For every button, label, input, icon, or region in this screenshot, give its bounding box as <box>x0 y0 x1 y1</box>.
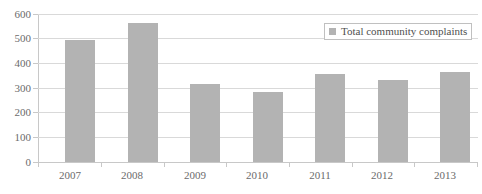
x-axis-tick-mark <box>101 163 102 167</box>
bar <box>128 23 158 162</box>
y-axis-tick-label: 100 <box>3 132 31 143</box>
bar <box>65 40 95 162</box>
y-axis-tick-label: 400 <box>3 58 31 69</box>
x-axis-tick-mark <box>38 163 39 167</box>
bar <box>190 84 220 162</box>
x-axis-tick-mark <box>164 163 165 167</box>
x-axis-tick-mark <box>226 163 227 167</box>
x-axis-tick-label: 2011 <box>290 169 350 181</box>
x-axis-tick-label: 2010 <box>227 169 287 181</box>
x-axis-tick-mark <box>289 163 290 167</box>
chart-legend: Total community complaints <box>324 23 472 40</box>
x-axis-tick-label: 2009 <box>165 169 225 181</box>
x-axis-line <box>38 162 478 163</box>
x-axis-tick-label: 2012 <box>352 169 412 181</box>
x-axis-tick-label: 2013 <box>415 169 475 181</box>
x-axis-tick-label: 2008 <box>102 169 162 181</box>
x-axis-tick-label: 2007 <box>40 169 100 181</box>
gridline <box>38 63 478 64</box>
y-axis-tick-label: 600 <box>3 9 31 20</box>
bar-chart: 600 500 400 300 200 100 0 20 <box>0 0 482 194</box>
bar <box>253 92 283 162</box>
x-axis-tick-mark <box>352 163 353 167</box>
y-axis-tick-label: 0 <box>3 157 31 168</box>
y-axis: 600 500 400 300 200 100 0 <box>0 0 31 194</box>
legend-swatch-icon <box>329 28 336 35</box>
y-axis-tick-label: 500 <box>3 33 31 44</box>
y-axis-tick-label: 300 <box>3 83 31 94</box>
gridline <box>38 88 478 89</box>
x-axis-tick-mark <box>414 163 415 167</box>
bar <box>378 80 408 162</box>
x-axis-tick-mark <box>477 163 478 167</box>
bar <box>315 74 345 162</box>
y-axis-tick-label: 200 <box>3 107 31 118</box>
gridline <box>38 14 478 15</box>
bar <box>440 72 470 162</box>
legend-item-label: Total community complaints <box>341 26 467 37</box>
